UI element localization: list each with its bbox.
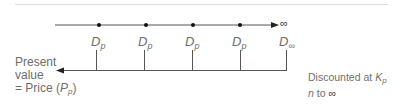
payment-label: Dp	[232, 34, 246, 51]
payment-label-infinity: D∞	[279, 34, 295, 51]
payment-dot	[238, 23, 242, 27]
payment-label: Dp	[138, 34, 152, 51]
timeline-arrowhead-icon	[271, 22, 279, 28]
payment-dot	[97, 23, 101, 27]
payment-dot	[191, 23, 195, 27]
payment-label: Dp	[91, 34, 105, 51]
discount-note: Discounted at Kp n to ∞	[308, 71, 387, 100]
payment-dot	[144, 23, 148, 27]
infinity-symbol: ∞	[280, 17, 288, 29]
payment-label: Dp	[185, 34, 199, 51]
present-value-label: Present value = Price (Pp)	[15, 56, 76, 98]
